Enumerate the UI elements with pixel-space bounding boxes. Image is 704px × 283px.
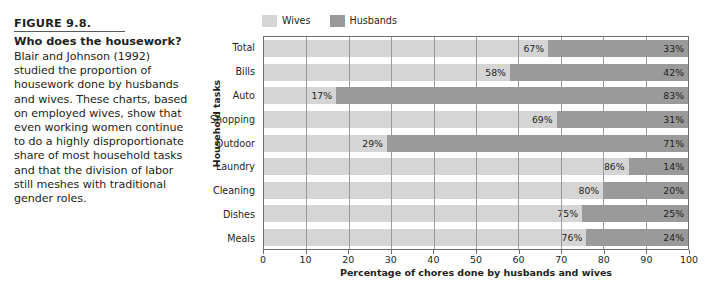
bar-segment-wives: 58% (264, 64, 510, 81)
bar-row: 76%24% (264, 226, 688, 250)
legend-label: Wives (282, 15, 311, 27)
bar-value-label: 42% (663, 67, 688, 78)
x-axis-tick-label: 40 (427, 254, 439, 265)
chart-legend: WivesHusbands (262, 14, 410, 28)
bar-segment-wives: 67% (264, 40, 548, 57)
bar-segment-wives: 17% (264, 87, 336, 104)
stacked-bar: 67%33% (264, 40, 688, 57)
bar-segment-husbands: 83% (336, 87, 688, 104)
legend-swatch-icon (262, 15, 277, 27)
x-axis-tick-label: 90 (640, 254, 652, 265)
y-axis-label: Cleaning (196, 179, 260, 203)
bar-value-label: 69% (532, 114, 557, 125)
y-axis-label: Meals (196, 226, 260, 250)
x-axis-title: Percentage of chores done by husbands an… (263, 267, 689, 278)
x-axis-tick-label: 100 (680, 254, 698, 265)
plot-area: 67%33%58%42%17%83%69%31%29%71%86%14%80%2… (263, 36, 689, 250)
bar-value-label: 20% (663, 185, 688, 196)
bar-segment-wives: 69% (264, 111, 557, 128)
legend-label: Husbands (350, 15, 397, 27)
bar-segment-wives: 80% (264, 182, 603, 199)
bar-segment-husbands: 31% (557, 111, 688, 128)
stacked-bar: 75%25% (264, 205, 688, 222)
bar-value-label: 86% (604, 161, 629, 172)
y-axis-label: Bills (196, 60, 260, 84)
bar-segment-husbands: 33% (548, 40, 688, 57)
bar-value-label: 58% (485, 67, 510, 78)
stacked-bar: 29%71% (264, 135, 688, 152)
figure-title: Who does the housework? (14, 35, 192, 49)
legend-swatch-icon (330, 15, 345, 27)
figure-caption: FIGURE 9.8. Who does the housework? Blai… (14, 12, 192, 206)
bar-value-label: 25% (663, 208, 688, 219)
x-axis-tick-label: 20 (342, 254, 354, 265)
x-axis-tick-label: 0 (260, 254, 266, 265)
bar-value-label: 31% (663, 114, 688, 125)
stacked-bar: 58%42% (264, 64, 688, 81)
y-axis-category-labels: TotalBillsAutoShoppingOutdoorLaundryClea… (196, 36, 260, 250)
y-axis-label: Laundry (196, 155, 260, 179)
bar-row: 17%83% (264, 84, 688, 108)
stacked-bar-chart: WivesHusbands Household tasks TotalBills… (196, 0, 704, 283)
bar-rows: 67%33%58%42%17%83%69%31%29%71%86%14%80%2… (264, 37, 688, 249)
bar-value-label: 83% (663, 90, 688, 101)
bar-segment-husbands: 24% (586, 229, 688, 246)
bar-row: 80%20% (264, 178, 688, 202)
bar-segment-husbands: 42% (510, 64, 688, 81)
y-axis-label: Shopping (196, 107, 260, 131)
bar-value-label: 71% (663, 138, 688, 149)
bar-row: 69%31% (264, 108, 688, 132)
bar-segment-wives: 29% (264, 135, 387, 152)
x-axis-tick-label: 80 (598, 254, 610, 265)
bar-value-label: 80% (579, 185, 604, 196)
stacked-bar: 17%83% (264, 87, 688, 104)
bar-segment-wives: 75% (264, 205, 582, 222)
bar-value-label: 75% (557, 208, 582, 219)
legend-item-wives: Wives (262, 15, 311, 27)
y-axis-label: Auto (196, 84, 260, 108)
bar-segment-husbands: 20% (603, 182, 688, 199)
bar-segment-husbands: 14% (629, 158, 688, 175)
bar-segment-wives: 86% (264, 158, 629, 175)
bar-row: 75%25% (264, 202, 688, 226)
x-axis-tick-label: 50 (470, 254, 482, 265)
figure-body-text: Blair and Johnson (1992) studied the pro… (14, 50, 192, 206)
bar-row: 67%33% (264, 37, 688, 61)
bar-row: 58%42% (264, 61, 688, 85)
bar-value-label: 67% (523, 43, 548, 54)
stacked-bar: 86%14% (264, 158, 688, 175)
bar-value-label: 24% (663, 232, 688, 243)
stacked-bar: 80%20% (264, 182, 688, 199)
figure-number: FIGURE 9.8. (14, 17, 125, 32)
bar-segment-husbands: 71% (387, 135, 688, 152)
bar-row: 86%14% (264, 155, 688, 179)
y-axis-label: Outdoor (196, 131, 260, 155)
x-axis-tick-label: 30 (385, 254, 397, 265)
x-axis-tick-label: 10 (300, 254, 312, 265)
bar-value-label: 76% (562, 232, 587, 243)
bar-value-label: 14% (663, 161, 688, 172)
y-axis-label: Total (196, 36, 260, 60)
bar-segment-wives: 76% (264, 229, 586, 246)
x-axis-tick-label: 60 (513, 254, 525, 265)
legend-item-husbands: Husbands (330, 15, 397, 27)
bar-segment-husbands: 25% (582, 205, 688, 222)
stacked-bar: 76%24% (264, 229, 688, 246)
bar-value-label: 33% (663, 43, 688, 54)
x-axis-tick-label: 70 (555, 254, 567, 265)
bar-row: 29%71% (264, 131, 688, 155)
y-axis-label: Dishes (196, 202, 260, 226)
stacked-bar: 69%31% (264, 111, 688, 128)
x-axis-tick-labels: 0102030405060708090100 (263, 254, 689, 267)
bar-value-label: 17% (311, 90, 336, 101)
bar-value-label: 29% (362, 138, 387, 149)
